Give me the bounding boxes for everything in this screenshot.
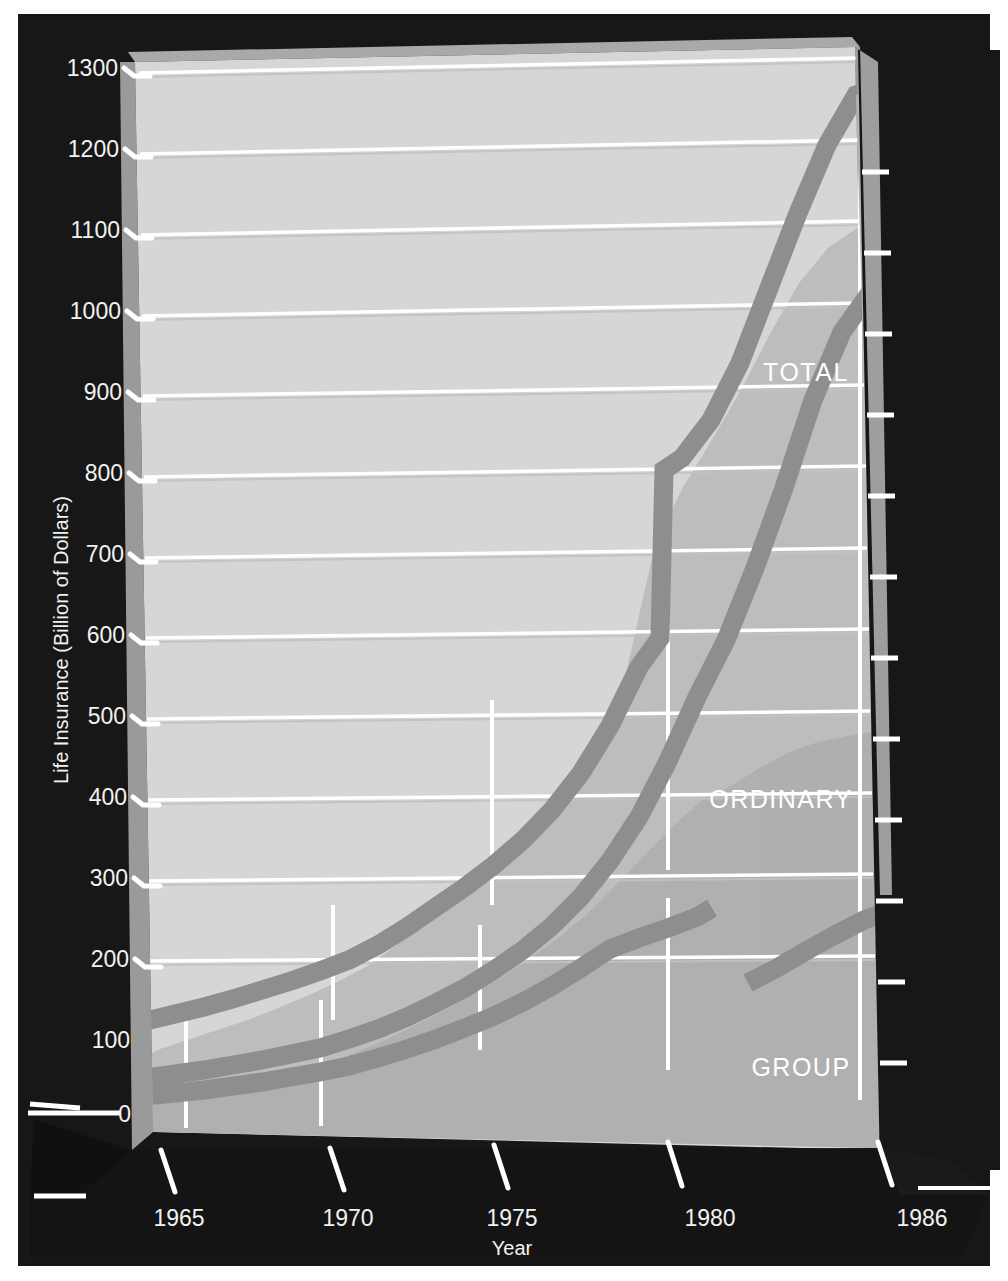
- x-tick-label: 1970: [322, 1205, 373, 1231]
- y-tick-label: 1300: [67, 55, 118, 81]
- x-tick-label: 1975: [486, 1205, 537, 1231]
- y-tick-label: 200: [91, 946, 129, 972]
- x-tick-label: 1980: [684, 1205, 735, 1231]
- chart-svg: 1300 1200 1100 1000 900 800 700 600 500 …: [0, 0, 1008, 1281]
- y-tick-label: 800: [85, 460, 123, 486]
- series-label-ordinary: ORDINARY: [709, 785, 853, 813]
- y-tick-label: 1000: [70, 298, 121, 324]
- series-label-group: GROUP: [751, 1053, 850, 1081]
- chart-figure: 1300 1200 1100 1000 900 800 700 600 500 …: [0, 0, 1008, 1281]
- y-tick-label: 100: [92, 1027, 130, 1053]
- x-axis-title: Year: [492, 1237, 533, 1259]
- y-tick-label: 400: [89, 784, 127, 810]
- y-axis-title: Life Insurance (Billion of Dollars): [50, 496, 72, 784]
- x-tick-label: 1986: [896, 1205, 947, 1231]
- y-tick-label: 300: [90, 865, 128, 891]
- y-tick-label: 1100: [71, 217, 120, 243]
- y-tick-label: 1200: [68, 136, 119, 162]
- y-tick-label: 900: [84, 379, 122, 405]
- y-tick-label: 600: [87, 622, 125, 648]
- x-tick-label: 1965: [153, 1205, 204, 1231]
- series-label-total: TOTAL: [763, 358, 849, 386]
- y-tick-label: 700: [86, 541, 124, 567]
- y-tick-label: 500: [88, 703, 126, 729]
- y-tick-label: 0: [118, 1101, 131, 1127]
